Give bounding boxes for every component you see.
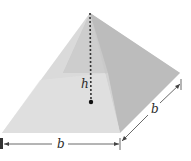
pyramid-diagram: h b b	[0, 0, 191, 161]
base-center-dot	[89, 100, 93, 104]
arrowhead-left-icon	[4, 142, 9, 146]
base-front-label: b	[57, 137, 65, 151]
arrowhead-right-icon	[114, 142, 119, 146]
left-edge-marker	[0, 138, 3, 149]
base-side-label: b	[151, 102, 159, 116]
height-label: h	[81, 77, 89, 91]
pyramid-front-lower-shade	[2, 73, 120, 133]
